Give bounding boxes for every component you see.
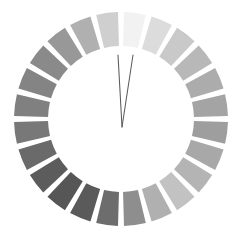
gauge-canvas bbox=[0, 0, 242, 233]
radial-gauge-figure bbox=[0, 0, 242, 233]
